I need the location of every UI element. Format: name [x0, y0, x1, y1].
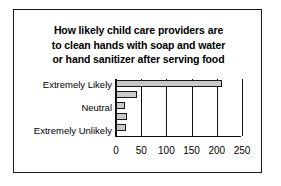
xtick-label-200: 200 — [208, 145, 225, 156]
gridline-200 — [217, 79, 218, 136]
xtick-label-0: 0 — [113, 145, 119, 156]
xtick-label-250: 250 — [234, 145, 251, 156]
gridline-100 — [166, 79, 167, 136]
chart-page: How likely child care providers are to c… — [0, 0, 281, 186]
chart-title-line-2: to clean hands with soap and water — [14, 38, 263, 53]
chart-title-line-3: or hand sanitizer after serving food — [14, 52, 263, 67]
plot-area: 0 50 100 150 200 250 — [115, 79, 241, 137]
bar-neutral — [116, 102, 125, 109]
gridline-250 — [242, 79, 243, 136]
gridline-150 — [192, 79, 193, 136]
chart-title-line-1: How likely child care providers are — [14, 23, 263, 38]
chart-title: How likely child care providers are to c… — [14, 23, 263, 67]
xtick-label-150: 150 — [183, 145, 200, 156]
bar-extremely-likely — [116, 80, 222, 87]
category-label-extremely-likely: Extremely Likely — [0, 80, 112, 90]
category-label-extremely-unlikely: Extremely Unlikely — [0, 126, 112, 136]
plot-wrapper: Extremely Likely Neutral Extremely Unlik… — [14, 75, 263, 174]
xtick-label-100: 100 — [158, 145, 175, 156]
gridline-50 — [141, 79, 142, 136]
chart-frame: How likely child care providers are to c… — [13, 9, 262, 173]
bar-unlikely — [116, 113, 127, 120]
bar-extremely-unlikely — [116, 124, 126, 131]
bar-likely — [116, 91, 137, 98]
xtick-label-50: 50 — [136, 145, 147, 156]
category-label-neutral: Neutral — [0, 103, 112, 113]
